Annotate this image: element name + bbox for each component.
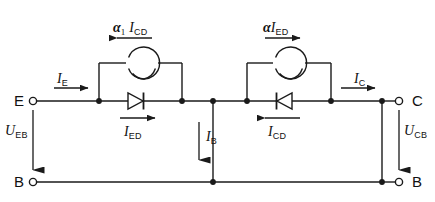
junction-dot — [210, 98, 216, 104]
right-source-alpha-symbol: α — [263, 20, 271, 35]
emitter-base-voltage-subscript: EB — [15, 130, 28, 140]
left-source-label: α1ICD — [113, 19, 148, 35]
emitter-base-voltage-label: UEB — [5, 122, 28, 138]
left-source-alpha-subscript: 1 — [121, 27, 126, 37]
terminal-label-emitter: E — [14, 93, 24, 108]
emitter-current-symbol: I — [57, 71, 62, 86]
emitter-diode-current-symbol: I — [124, 124, 129, 139]
base-current-label: IB — [206, 128, 217, 144]
collector-current-symbol: I — [354, 71, 359, 86]
terminal-node-base-right — [395, 178, 402, 185]
junction-dot — [328, 98, 334, 104]
collector-diode-current-symbol: I — [268, 124, 273, 139]
right-source-current-subscript: ED — [275, 27, 288, 37]
junction-dot — [244, 98, 250, 104]
collector-base-voltage-symbol: U — [404, 123, 414, 138]
emitter-diode-current-subscript: ED — [129, 131, 142, 141]
right-current-source-symbol — [276, 47, 307, 79]
base-current-subscript: B — [211, 136, 217, 146]
collector-base-voltage-label: UCB — [404, 122, 427, 138]
junction-dot — [179, 98, 185, 104]
emitter-current-label: IE — [57, 70, 68, 86]
collector-diode-current-subscript: CD — [273, 131, 287, 141]
junction-dot — [96, 98, 102, 104]
terminal-label-collector: C — [412, 93, 423, 108]
emitter-current-subscript: E — [62, 78, 68, 88]
collector-diode-current-label: ICD — [268, 123, 286, 139]
junction-dot — [210, 179, 216, 185]
terminal-label-base-right: B — [412, 174, 422, 189]
left-source-alpha-symbol: α — [113, 20, 121, 35]
wire-group — [37, 63, 382, 182]
schematic-canvas — [0, 0, 435, 202]
collector-current-subscript: C — [359, 78, 366, 88]
terminal-node-emitter — [29, 97, 36, 104]
left-source-current-subscript: CD — [134, 27, 148, 37]
right-source-label: αIED — [263, 19, 289, 35]
emitter-base-voltage-symbol: U — [5, 123, 15, 138]
junction-dot-group — [96, 98, 385, 185]
terminal-node-collector — [395, 97, 402, 104]
emitter-diode-symbol — [128, 93, 144, 110]
left-current-source-symbol — [129, 47, 160, 79]
terminal-node-base-left — [29, 178, 36, 185]
circuit-diagram: E B C B α1ICD αIED IE IC IB IED ICD UEB … — [0, 0, 435, 202]
collector-current-label: IC — [354, 70, 365, 86]
terminal-label-base-left: B — [14, 174, 24, 189]
base-current-symbol: I — [206, 129, 211, 144]
collector-diode-symbol — [277, 93, 293, 110]
emitter-diode-current-label: IED — [124, 123, 142, 139]
collector-base-voltage-subscript: CB — [414, 130, 427, 140]
